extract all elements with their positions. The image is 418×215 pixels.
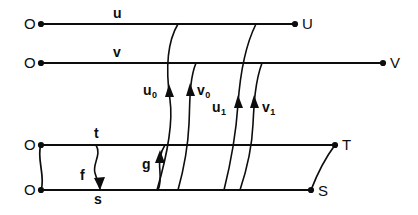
label-morphism-u0-subscript: 0 [152,90,157,100]
label-morphism-v0-subscript: 0 [205,90,210,100]
label-morphism-u0-base: u [143,82,152,98]
label-morphism-u1-subscript: 1 [221,107,226,117]
diagram-canvas: O O O O U V T S u v t s u0 v0 u1 v1 f g [0,0,418,215]
curve-g [158,145,165,190]
dot-terminal-v [380,60,386,66]
label-morphism-g: g [142,157,151,171]
left-brace-curve [40,145,43,190]
label-edge-s: s [94,192,102,206]
label-origin-v: O [24,55,36,70]
arrowhead-f [94,177,105,190]
label-terminal-t: T [342,137,351,152]
dot-terminal-s [308,187,314,193]
label-origin-s: O [24,182,36,197]
arrowhead-u1 [234,95,243,108]
arrowhead-v1 [250,95,259,108]
label-morphism-u1: u1 [212,100,226,114]
arrowhead-g [155,150,165,163]
arrowhead-u0 [165,84,174,97]
label-morphism-v1-subscript: 1 [270,107,275,117]
label-morphism-f: f [80,168,85,182]
dot-terminal-u [292,21,298,27]
arrowhead-v0 [186,83,195,96]
label-morphism-u1-base: u [212,99,221,115]
label-morphism-v1: v1 [262,100,275,114]
label-morphism-u0: u0 [143,83,157,97]
label-morphism-v0: v0 [197,83,210,97]
label-morphism-v0-base: v [197,82,205,98]
dot-origin-t [38,142,44,148]
dot-origin-s [38,187,44,193]
label-terminal-s: S [318,183,328,198]
label-morphism-v1-base: v [262,99,270,115]
dot-terminal-t [332,142,338,148]
label-origin-t: O [24,137,36,152]
diagram-vector-layer [0,0,418,215]
label-edge-v: v [113,45,121,59]
label-edge-u: u [113,6,122,20]
label-edge-t: t [94,126,99,140]
dot-origin-v [38,60,44,66]
label-terminal-v: V [390,55,400,70]
curve-v1 [240,63,262,190]
label-origin-u: O [24,16,36,31]
label-terminal-u: U [302,16,313,31]
curve-v0 [178,63,196,190]
dot-origin-u [38,21,44,27]
